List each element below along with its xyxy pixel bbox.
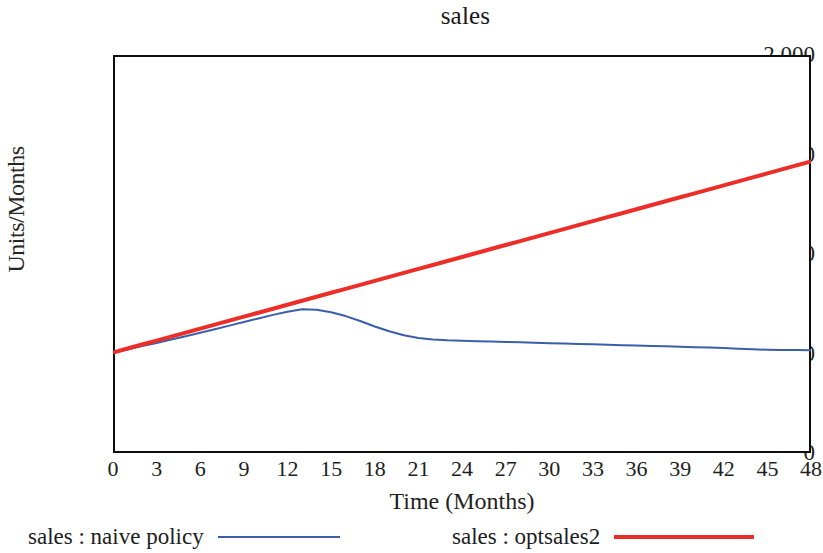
x-tick-label: 48	[787, 458, 823, 480]
x-tick-label: 6	[176, 458, 224, 480]
x-tick-label: 12	[264, 458, 312, 480]
sales-line-chart: sales Units/Months 05001,0001,5002,000 0…	[0, 0, 823, 553]
plot-area	[113, 55, 811, 453]
x-tick-label: 39	[656, 458, 704, 480]
legend-label-optsales2: sales : optsales2	[452, 524, 600, 550]
x-axis-title: Time (Months)	[113, 488, 811, 515]
x-tick-label: 18	[351, 458, 399, 480]
legend-item-optsales2: sales : optsales2	[452, 521, 754, 553]
x-tick-label: 15	[307, 458, 355, 480]
legend-label-naive-policy: sales : naive policy	[28, 524, 204, 550]
chart-legend: sales : naive policy sales : optsales2	[0, 521, 823, 553]
x-tick-label: 27	[482, 458, 530, 480]
y-axis-title: Units/Months	[3, 110, 30, 310]
x-tick-label: 24	[438, 458, 486, 480]
legend-swatch-naive-policy	[218, 536, 340, 538]
x-tick-label: 30	[525, 458, 573, 480]
legend-swatch-optsales2	[614, 535, 754, 539]
x-tick-label: 42	[700, 458, 748, 480]
x-tick-label: 45	[743, 458, 791, 480]
x-tick-label: 0	[89, 458, 137, 480]
x-tick-label: 9	[220, 458, 268, 480]
x-tick-label: 3	[133, 458, 181, 480]
x-tick-label: 21	[394, 458, 442, 480]
series-canvas	[113, 55, 811, 453]
x-tick-label: 36	[613, 458, 661, 480]
x-tick-label: 33	[569, 458, 617, 480]
series-line-optsales2	[113, 161, 811, 352]
chart-title: sales	[0, 2, 823, 30]
series-line-naive-policy	[113, 309, 811, 352]
legend-item-naive-policy: sales : naive policy	[28, 521, 340, 553]
chart-title-text: sales	[441, 2, 491, 29]
